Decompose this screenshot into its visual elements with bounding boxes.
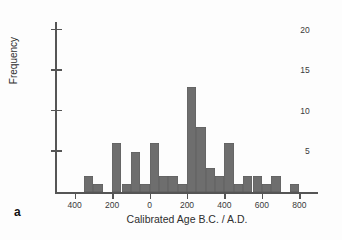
histogram-bar [159, 176, 168, 192]
histogram-bar [262, 184, 271, 192]
plot-area: 5101520 4002000200400600800 [56, 22, 318, 192]
x-tick [224, 192, 225, 199]
histogram-bar [150, 143, 159, 192]
x-tick-label: 800 [292, 201, 306, 210]
x-tick-label: 200 [105, 201, 119, 210]
histogram-bar [140, 184, 149, 192]
figure-panel-a: Frequency 5101520 4002000200400600800 Ca… [0, 0, 342, 240]
histogram-bar [187, 87, 196, 192]
x-tick [112, 192, 113, 199]
histogram-bar [234, 184, 243, 192]
x-tick [75, 192, 76, 199]
y-axis-label: Frequency [8, 13, 19, 109]
x-tick-label: 400 [68, 201, 82, 210]
histogram-bar [112, 143, 121, 192]
x-tick [299, 192, 300, 199]
histogram-bar [168, 176, 177, 192]
x-tick [150, 192, 151, 199]
panel-letter: a [14, 205, 21, 219]
x-tick-label: 0 [147, 201, 152, 210]
histogram-bar [196, 127, 205, 192]
histogram-bar [178, 184, 187, 192]
x-tick [187, 192, 188, 199]
x-tick [262, 192, 263, 199]
histogram-bar [253, 176, 262, 192]
x-tick-label: 600 [255, 201, 269, 210]
histogram-bar [224, 143, 233, 192]
x-tick-label: 200 [180, 201, 194, 210]
x-tick-label: 400 [217, 201, 231, 210]
histogram-bars [56, 22, 318, 192]
x-axis-label: Calibrated Age B.C. / A.D. [56, 213, 318, 225]
histogram-bar [215, 176, 224, 192]
histogram-bar [84, 176, 93, 192]
histogram-bar [131, 152, 140, 192]
histogram-bar [290, 184, 299, 192]
histogram-bar [206, 168, 215, 192]
histogram-bar [271, 176, 280, 192]
histogram-bar [122, 184, 131, 192]
histogram-bar [243, 176, 252, 192]
histogram-bar [93, 184, 102, 192]
